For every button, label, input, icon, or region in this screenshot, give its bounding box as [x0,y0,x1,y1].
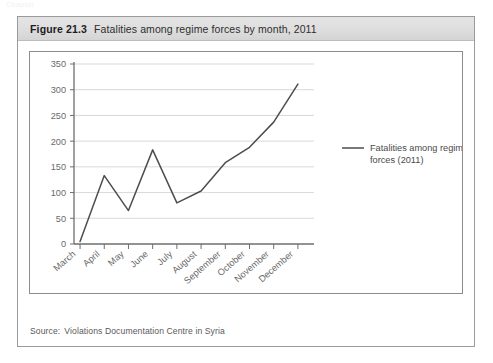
y-axis-tick-label: 100 [51,188,66,198]
figure-number: Figure 21.3 [30,23,87,35]
chart-plot-area: 050100150200250300350MarchAprilMayJuneJu… [29,51,463,294]
source-note: Source:Violations Documentation Centre i… [30,326,225,336]
source-label: Source: [30,326,60,336]
figure-title: Fatalities among regime forces by month,… [94,23,317,35]
figure-container: Figure 21.3 Fatalities among regime forc… [17,16,475,347]
x-axis-tick-label: May [106,249,126,268]
y-axis-tick-label: 50 [56,214,66,224]
x-axis-tick-label: July [155,249,174,268]
page-ghost-text: Chapter [6,1,34,8]
figure-header: Figure 21.3 Fatalities among regime forc… [18,17,474,41]
y-axis-tick-label: 300 [51,85,66,95]
x-axis-tick-label: April [81,249,101,269]
x-axis-tick-label: June [128,249,150,270]
y-axis-tick-label: 200 [51,137,66,147]
legend-label-line2: forces (2011) [370,155,423,165]
y-axis-tick-label: 0 [61,239,66,249]
line-chart: 050100150200250300350MarchAprilMayJuneJu… [30,52,462,293]
x-axis-tick-label: March [52,249,78,273]
source-text: Violations Documentation Centre in Syria [64,326,225,336]
y-axis-tick-label: 350 [51,59,66,69]
y-axis-tick-label: 150 [51,162,66,172]
legend-label-line1: Fatalities among regime [370,143,462,153]
y-axis-tick-label: 250 [51,111,66,121]
